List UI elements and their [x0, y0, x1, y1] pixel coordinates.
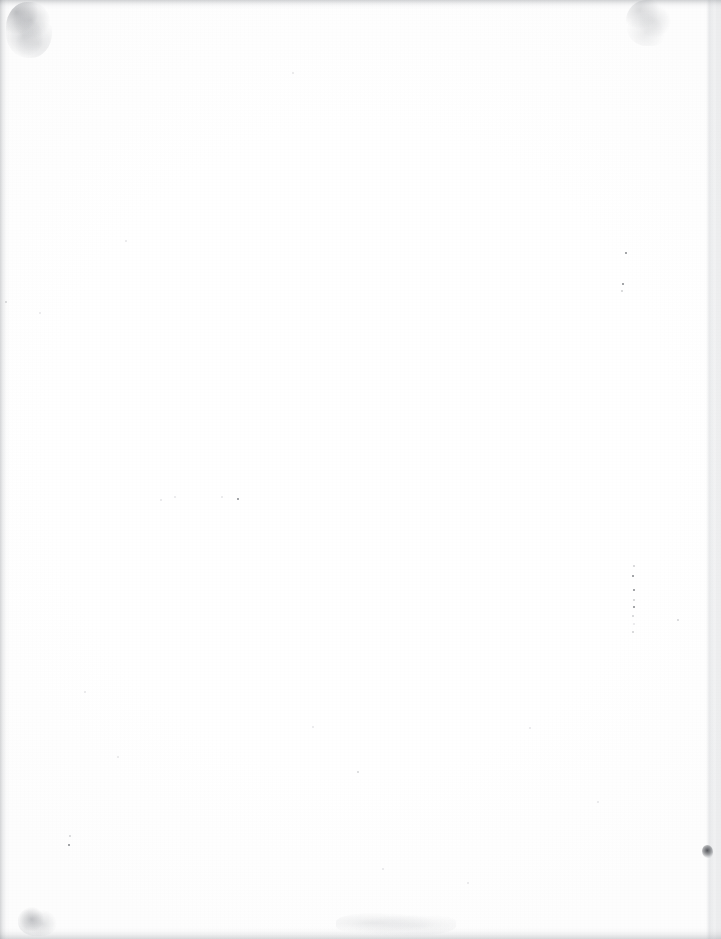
- page-body-text: [56, 64, 665, 875]
- scanned-page: [0, 0, 721, 939]
